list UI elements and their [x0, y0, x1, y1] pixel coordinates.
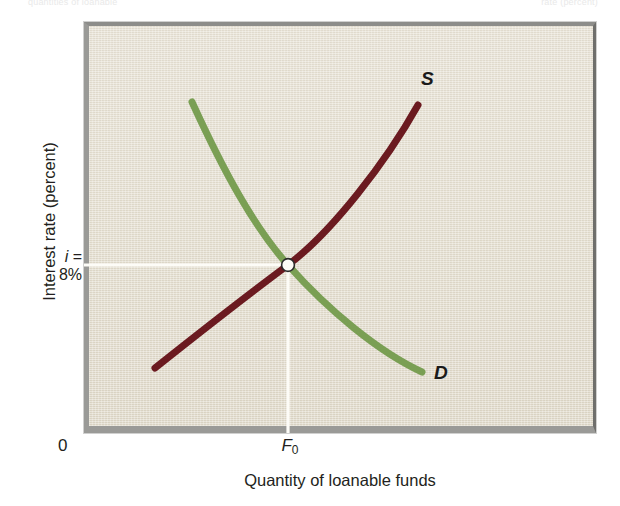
demand-curve	[192, 102, 422, 372]
page-bleed-text-left: quantities of loanable	[28, 0, 117, 7]
supply-curve-label: S	[421, 68, 434, 89]
chart-plot: S D	[84, 22, 596, 433]
interest-rate-equals: =	[68, 248, 82, 265]
origin-label: 0	[58, 436, 67, 456]
equilibrium-quantity-label: F0	[252, 436, 328, 457]
y-axis-title: Interest rate (percent)	[40, 82, 59, 362]
demand-curve-label: D	[434, 362, 448, 383]
page-bleed-text-right: rate (percent)	[541, 0, 598, 7]
figure-container: quantities of loanable rate (percent) S …	[0, 0, 620, 506]
equilibrium-rate-value: 8%	[20, 266, 82, 284]
x-axis-title: Quantity of loanable funds	[84, 471, 596, 490]
equilibrium-rate-label: i = 8%	[20, 248, 82, 284]
equilibrium-quantity-letter: F	[281, 436, 291, 455]
equilibrium-rate-line-1: i =	[20, 248, 82, 266]
equilibrium-point-marker	[282, 259, 295, 272]
equilibrium-quantity-subscript: 0	[292, 443, 299, 457]
